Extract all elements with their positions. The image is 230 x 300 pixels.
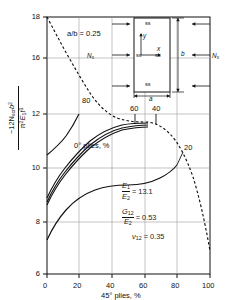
y-title-num-sup: 2 bbox=[7, 102, 13, 105]
x-tick-80: 80 bbox=[171, 281, 179, 290]
x-axis-ticks bbox=[47, 274, 210, 278]
property-e1-e2: E1 E2 = 13.1 bbox=[122, 182, 164, 202]
load-arrows-right bbox=[192, 22, 210, 88]
nu-symbol-wrap: ν12 bbox=[132, 232, 142, 241]
g-ratio-denominator: E2 bbox=[124, 218, 132, 227]
y-axis-title: −12Nxcrb2 π2E1t3 bbox=[8, 86, 28, 150]
aspect-ratio-annotation: a/b = 0.25 bbox=[67, 29, 101, 38]
x-tick-20: 20 bbox=[73, 281, 81, 290]
e-ratio-denominator: E2 bbox=[122, 193, 130, 202]
x-axis-title: 45° plies, % bbox=[101, 291, 141, 300]
y-title-den-pi: π bbox=[18, 123, 27, 128]
g-ratio-value: = 0.53 bbox=[136, 213, 157, 222]
nu-subscript: 12 bbox=[136, 235, 142, 241]
e1-subscript: 1 bbox=[127, 184, 130, 190]
x-tick-100: 100 bbox=[202, 281, 215, 290]
y-tick-18: 18 bbox=[24, 12, 40, 21]
nu-value: = 0.35 bbox=[144, 232, 165, 241]
contour-label-40: 40 bbox=[152, 104, 160, 113]
property-nu12: ν12 = 0.35 bbox=[122, 232, 164, 241]
dimension-label-b: b bbox=[181, 50, 185, 57]
e-ratio-numerator: E1 bbox=[122, 182, 130, 191]
y-title-num-b: b bbox=[7, 105, 16, 109]
y-title-den-t-sup: 3 bbox=[18, 108, 24, 111]
axis-label-x: x bbox=[157, 45, 160, 52]
y-title-den-e: E bbox=[18, 116, 27, 121]
x-tick-60: 60 bbox=[139, 281, 147, 290]
y-title-den-t: t bbox=[18, 110, 27, 112]
g-ratio-numerator: G12 bbox=[122, 208, 134, 217]
x-tick-40: 40 bbox=[106, 281, 114, 290]
contour-label-60: 60 bbox=[130, 104, 138, 113]
load-label-left: Nx bbox=[87, 52, 94, 60]
e2-subscript: 2 bbox=[127, 195, 130, 201]
property-g12-e2: G12 E2 = 0.53 bbox=[122, 208, 164, 228]
load-right-sub: x bbox=[217, 55, 219, 60]
ss-label-left: ss bbox=[136, 52, 142, 58]
axis-label-y: y bbox=[143, 32, 146, 39]
dimension-label-a: a bbox=[149, 95, 153, 102]
y-axis-ticks bbox=[43, 17, 47, 274]
load-left-sub: x bbox=[92, 55, 94, 60]
g12-subscript: 12 bbox=[128, 210, 134, 216]
load-arrows-left bbox=[112, 22, 130, 88]
contour-label-20: 20 bbox=[184, 143, 192, 152]
y-tick-16: 16 bbox=[24, 53, 40, 62]
load-label-right: Nx bbox=[212, 52, 219, 60]
g-ratio-fraction: G12 E2 bbox=[122, 208, 134, 228]
x-tick-0: 0 bbox=[43, 281, 47, 290]
plate-inset-svg bbox=[100, 12, 226, 98]
g-e2-subscript: 2 bbox=[129, 220, 132, 226]
zero-deg-plies-label: 0° plies, % bbox=[74, 141, 110, 150]
ss-label-right: ss bbox=[155, 52, 161, 58]
y-tick-6: 6 bbox=[24, 269, 40, 278]
y-title-den-pi-sup: 2 bbox=[18, 120, 24, 123]
ss-label-bottom: ss bbox=[145, 81, 151, 87]
plate-inset-diagram: ss ss ss ss y x b a bbox=[100, 12, 226, 98]
e-ratio-value: = 13.1 bbox=[132, 187, 153, 196]
contour-label-80: 80 bbox=[82, 96, 90, 105]
y-tick-8: 8 bbox=[24, 217, 40, 226]
y-tick-10: 10 bbox=[24, 163, 40, 172]
ss-label-top: ss bbox=[145, 20, 151, 26]
y-title-num-lead: −12N bbox=[7, 116, 16, 134]
e-ratio-fraction: E1 E2 bbox=[122, 182, 130, 202]
material-properties: E1 E2 = 13.1 G12 E2 = 0.53 ν12 = 0.35 bbox=[122, 182, 164, 245]
y-title-num-sub: xcr bbox=[10, 109, 16, 116]
